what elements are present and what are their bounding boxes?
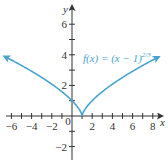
function-label-exponent: 2/3 bbox=[142, 51, 151, 59]
x-axis-tick-labels: −6−4−202468 bbox=[6, 115, 157, 132]
x-tick-label: 8 bbox=[150, 120, 156, 132]
x-tick-label: 2 bbox=[89, 120, 95, 132]
function-label: f(x) = (x − 1)2/3 bbox=[83, 51, 151, 65]
x-tick-label: −4 bbox=[26, 120, 38, 132]
y-axis-tick-labels: −2246 bbox=[55, 18, 67, 152]
y-tick-label: 2 bbox=[62, 79, 68, 91]
x-axis-label: x bbox=[159, 116, 165, 128]
x-tick-label: 0 bbox=[65, 115, 71, 127]
function-label-base: f(x) = (x − 1) bbox=[83, 52, 142, 65]
function-graph: −6−4−202468 −2246 x y f(x) = (x − 1)2/3 bbox=[0, 0, 168, 167]
y-tick-label: −2 bbox=[55, 141, 67, 153]
function-curve-left bbox=[4, 56, 82, 116]
x-tick-label: −2 bbox=[46, 120, 58, 132]
x-tick-label: 4 bbox=[110, 120, 116, 132]
y-tick-label: 4 bbox=[62, 49, 68, 61]
x-tick-label: −6 bbox=[6, 120, 18, 132]
x-tick-label: 6 bbox=[130, 120, 136, 132]
function-curve-right bbox=[82, 57, 159, 116]
y-axis-label: y bbox=[62, 3, 68, 15]
y-tick-label: 6 bbox=[62, 18, 68, 30]
